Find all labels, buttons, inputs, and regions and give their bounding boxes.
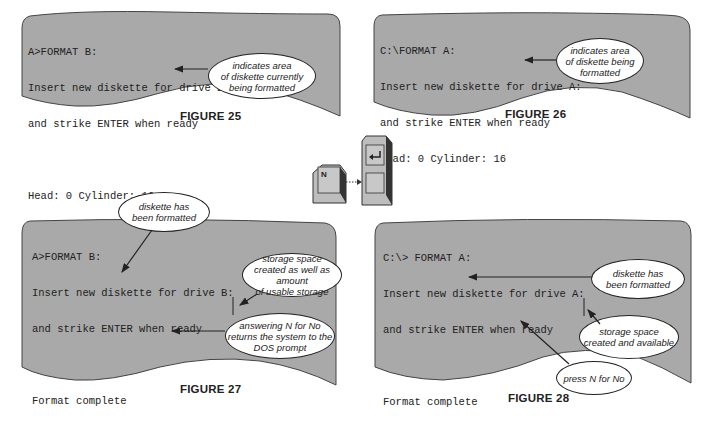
callout-press-n: press N for No	[556, 361, 632, 395]
callout-head-cylinder: indicates area of diskette being formatt…	[556, 38, 644, 84]
terminal-line: Format complete	[32, 395, 253, 407]
terminal-line: C:\FORMAT A:	[380, 45, 582, 57]
callout-text: returns the system to the	[228, 331, 333, 342]
enter-key	[360, 135, 394, 207]
terminal-line	[32, 359, 253, 371]
terminal-output: A>FORMAT B: Insert new diskette for driv…	[28, 22, 230, 226]
callout-text: been formatted	[132, 212, 196, 223]
terminal-line: Insert new diskette for drive A:	[380, 81, 582, 93]
figure-25: A>FORMAT B: Insert new diskette for driv…	[20, 8, 345, 123]
callout-storage-space: storage space created and available	[579, 315, 679, 359]
callout-text: press N for No	[563, 373, 624, 384]
terminal-line: Format complete	[383, 396, 604, 408]
callout-text: indicates area	[221, 60, 303, 71]
callout-text: DOS prompt	[228, 342, 333, 353]
callout-text: of usable storage	[243, 286, 341, 297]
callout-text: storage space	[584, 326, 674, 337]
figure-caption: FIGURE 27	[180, 383, 241, 395]
figure-27: A>FORMAT B: Insert new diskette for driv…	[20, 217, 340, 387]
callout-answer-n: answering N for No returns the system to…	[225, 313, 335, 359]
terminal-line: and strike ENTER when ready	[383, 324, 604, 336]
callout-text: indicates area	[565, 45, 634, 56]
terminal-line: Insert new diskette for drive B:	[32, 287, 253, 299]
callout-text: diskette has	[132, 201, 196, 212]
callout-text: been formatted	[606, 279, 670, 290]
callout-text: of diskette currently	[221, 71, 303, 82]
terminal-line	[28, 154, 230, 166]
callout-formatted: diskette has been formatted	[591, 259, 685, 299]
figure-caption: FIGURE 28	[508, 392, 569, 404]
callout-text: answering N for No	[228, 320, 333, 331]
terminal-line: A>FORMAT B:	[32, 251, 253, 263]
terminal-line: C:\> FORMAT A:	[383, 252, 604, 264]
callout-storage-space: storage space created as well as amount …	[242, 253, 342, 297]
terminal-line: A>FORMAT B:	[28, 46, 230, 58]
callout-text: of diskette being	[565, 56, 634, 67]
callout-text: storage space	[243, 253, 341, 264]
callout-text: created and available	[584, 337, 674, 348]
figure-caption: FIGURE 25	[180, 110, 241, 122]
terminal-output: C:\FORMAT A: Insert new diskette for dri…	[380, 21, 582, 189]
callout-text: formatted	[565, 67, 634, 78]
callout-formatted: diskette has been formatted	[118, 192, 210, 232]
terminal-line: and strike ENTER when ready	[32, 323, 253, 335]
callout-head-cylinder: indicates area of diskette currently bei…	[208, 53, 316, 99]
terminal-line: Insert new diskette for drive A:	[383, 288, 604, 300]
callout-text: being formatted	[221, 82, 303, 93]
n-key-label: N	[321, 170, 327, 179]
figure-26: C:\FORMAT A: Insert new diskette for dri…	[372, 10, 697, 122]
terminal-output: C:\> FORMAT A: Insert new diskette for d…	[383, 228, 604, 423]
n-key: N	[310, 163, 348, 205]
figure-caption: FIGURE 26	[505, 108, 566, 120]
terminal-line: Insert new diskette for drive B:	[28, 82, 230, 94]
callout-text: created as well as amount	[243, 264, 341, 286]
terminal-line: Head: 0 Cylinder: 16	[380, 153, 582, 165]
callout-text: diskette has	[606, 268, 670, 279]
figure-28: C:\> FORMAT A: Insert new diskette for d…	[373, 217, 693, 387]
